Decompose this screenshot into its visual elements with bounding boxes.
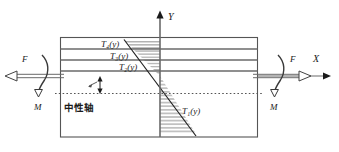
force-right-label: F bbox=[289, 54, 296, 64]
x-axis-label: X bbox=[312, 53, 320, 64]
layer-label-2: T₂(y) bbox=[119, 62, 137, 72]
layer-label-4: T₄(y) bbox=[101, 39, 119, 49]
moment-left-label: M bbox=[33, 102, 42, 112]
neutral-axis-label: 中性轴 bbox=[64, 102, 94, 113]
moment-arrow-left bbox=[35, 55, 48, 97]
moment-right-label: M bbox=[269, 102, 278, 112]
diagram-canvas: Y X F F M M bbox=[0, 0, 339, 152]
force-arrow-left bbox=[5, 71, 64, 81]
y-axis-label: Y bbox=[168, 11, 175, 22]
force-left-label: F bbox=[21, 54, 28, 64]
layer-label-3: T₃(y) bbox=[110, 51, 128, 61]
beam-temperature-diagram: Y X F F M M bbox=[0, 0, 339, 152]
x-axis bbox=[258, 73, 331, 80]
profile-label: T₁(y) bbox=[182, 106, 200, 116]
